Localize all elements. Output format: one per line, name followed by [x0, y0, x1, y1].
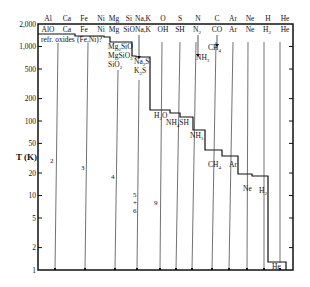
- svg-text:SH: SH: [175, 25, 185, 34]
- svg-text:He: He: [281, 14, 290, 23]
- svg-text:Ca: Ca: [63, 25, 72, 34]
- svg-text:6: 6: [133, 207, 137, 215]
- svg-text:2: 2: [50, 157, 54, 165]
- svg-text:H: H: [265, 14, 271, 23]
- svg-text:Ne: Ne: [246, 25, 255, 34]
- svg-text:N2: N2: [193, 25, 201, 35]
- svg-text:Ne: Ne: [246, 14, 255, 23]
- svg-text:Si: Si: [126, 14, 132, 23]
- svg-text:NH3: NH3: [190, 131, 204, 141]
- gas-species-labels: AlO Ca Fe Ni Mg SiO Na,K OH SH N2 CO Ar …: [42, 25, 291, 35]
- svg-text:500: 500: [25, 65, 37, 74]
- svg-text:4: 4: [111, 173, 115, 181]
- condensation-chart: 2,000 1,000 500 200 100 50 20 10 5 2 1 T…: [0, 0, 310, 287]
- svg-text:S: S: [178, 14, 182, 23]
- svg-text:Na,K: Na,K: [135, 25, 152, 34]
- svg-text:5: 5: [133, 191, 137, 199]
- svg-text:H2: H2: [263, 25, 271, 35]
- svg-text:Ar: Ar: [229, 160, 237, 169]
- svg-text:1: 1: [32, 266, 36, 275]
- svg-text:Ar: Ar: [229, 14, 237, 23]
- curve-numbers: 2 3 4 5 + 6 9: [50, 157, 158, 215]
- svg-text:3: 3: [81, 164, 85, 172]
- svg-text:Fe: Fe: [80, 14, 88, 23]
- svg-text:CH4: CH4: [208, 43, 221, 53]
- svg-text:H2: H2: [259, 186, 267, 196]
- svg-text:C: C: [214, 14, 219, 23]
- svg-text:20: 20: [29, 169, 37, 178]
- svg-text:refr. oxides: refr. oxides: [41, 35, 75, 44]
- plot-frame: [38, 24, 293, 270]
- svg-text:Ar: Ar: [229, 25, 237, 34]
- y-tick-labels: 2,000 1,000 500 200 100 50 20 10 5 2 1: [19, 20, 36, 275]
- svg-text:100: 100: [25, 117, 37, 126]
- svg-text:AlO: AlO: [42, 25, 56, 34]
- svg-text:SiO2: SiO2: [108, 60, 123, 70]
- condensation-curves: [55, 42, 280, 270]
- svg-text:Mg: Mg: [109, 14, 120, 23]
- svg-text:Ca: Ca: [63, 14, 72, 23]
- svg-text:O: O: [160, 14, 166, 23]
- svg-text:Na,K: Na,K: [135, 14, 152, 23]
- svg-text:9: 9: [154, 199, 158, 207]
- svg-text:NH4SH: NH4SH: [166, 118, 190, 128]
- svg-text:CO: CO: [212, 25, 223, 34]
- svg-text:He: He: [281, 25, 290, 34]
- svg-text:Ni: Ni: [97, 14, 105, 23]
- svg-text:OH: OH: [158, 25, 169, 34]
- y-axis-label: T (K): [16, 152, 37, 162]
- svg-text:5: 5: [32, 214, 36, 223]
- svg-text:N: N: [195, 14, 201, 23]
- svg-text:+: +: [133, 199, 137, 207]
- svg-text:50: 50: [29, 139, 37, 148]
- svg-text:Ne: Ne: [243, 184, 252, 193]
- svg-text:K2S: K2S: [134, 66, 146, 76]
- svg-text:Al: Al: [44, 14, 52, 23]
- svg-text:1,000: 1,000: [19, 42, 36, 51]
- svg-text:Fe: Fe: [80, 25, 88, 34]
- svg-text:SiO: SiO: [123, 25, 135, 34]
- svg-text:Mg: Mg: [109, 25, 120, 34]
- y-axis-ticks: [38, 47, 293, 248]
- svg-text:Ni: Ni: [97, 25, 105, 34]
- element-labels: Al Ca Fe Ni Mg Si Na,K O S N C Ar Ne H H…: [44, 14, 290, 23]
- svg-text:2,000: 2,000: [19, 20, 36, 29]
- svg-text:200: 200: [25, 94, 37, 103]
- svg-text:(Fe,Ni)?: (Fe,Ni)?: [77, 35, 103, 44]
- svg-text:CH4: CH4: [208, 160, 221, 170]
- svg-text:10: 10: [29, 191, 37, 200]
- svg-text:2: 2: [32, 243, 36, 252]
